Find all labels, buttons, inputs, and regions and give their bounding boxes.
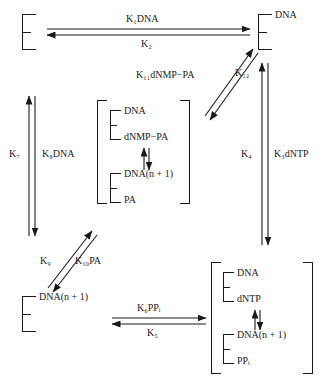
bottom-right-bracket-left — [211, 262, 221, 374]
center-lower-ligand-dna-n-plus-1: DNA(n + 1) — [124, 168, 173, 179]
rate-label-k3-dntp: K₃dNTP — [274, 148, 309, 159]
center-upper-ligand-dnmp-pa: dNMP−PA — [124, 131, 168, 142]
rate-label-k1-dna: K₁DNA — [126, 13, 158, 24]
rate-label-k10-pa: K₁₀PA — [75, 255, 101, 266]
rate-label-k4: K₄ — [241, 148, 252, 159]
arrow-overlay — [0, 0, 323, 384]
node-top-right-enzyme-bracket — [258, 14, 272, 50]
rate-label-k6-ppi: K₆PPᵢ — [137, 302, 160, 313]
node-top-left-enzyme-bracket — [22, 14, 36, 50]
rate-label-k11-dnmp-pa: K₁₁dNMP−PA — [136, 69, 194, 80]
center-lower-ligand-pa: PA — [124, 194, 136, 205]
bottom-right-lower-ligand-ppi: PPᵢ — [237, 355, 250, 366]
center-bracket-right — [180, 100, 190, 204]
arrow-k11-down — [210, 53, 258, 120]
center-lower-enzyme-bracket — [110, 173, 121, 203]
bottom-right-upper-enzyme-bracket — [223, 272, 234, 302]
rate-label-k8-dna: K₈DNA — [42, 148, 74, 159]
arrow-k12-up — [205, 49, 253, 116]
node-top-right-ligand-dna: DNA — [275, 9, 297, 20]
rate-label-k2: K₂ — [141, 38, 152, 49]
center-upper-enzyme-bracket — [110, 110, 121, 140]
rate-label-k12: K₁₂ — [235, 67, 249, 78]
rate-label-k9: K₉ — [40, 255, 51, 266]
rate-label-k5: K₅ — [147, 327, 158, 338]
arrow-center-equilibrium — [144, 148, 149, 170]
bottom-right-upper-ligand-dna: DNA — [237, 267, 259, 278]
bottom-right-lower-enzyme-bracket — [223, 334, 234, 364]
node-bottom-left-enzyme-bracket — [22, 296, 36, 332]
bottom-right-upper-ligand-dntp: dNTP — [237, 293, 261, 304]
rate-label-k7: K₇ — [9, 148, 20, 159]
bottom-right-lower-ligand-dna-n-plus-1: DNA(n + 1) — [237, 329, 286, 340]
node-bottom-left-ligand-dna-n-plus-1: DNA(n + 1) — [39, 291, 88, 302]
arrow-bottom-right-equilibrium — [255, 310, 260, 330]
center-upper-ligand-dna: DNA — [124, 105, 146, 116]
center-bracket-left — [97, 100, 107, 204]
bottom-right-bracket-right — [303, 262, 313, 374]
reaction-scheme-diagram: DNA K₁DNA K₂ K₁₁dNMP−PA K₁₂ K₇ K₈DNA K₄ … — [0, 0, 323, 384]
